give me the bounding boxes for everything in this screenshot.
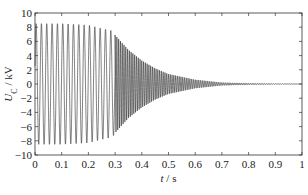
x-tick-label: 0.1	[55, 158, 69, 170]
x-tick-label: 0.2	[82, 158, 96, 170]
x-tick-label: 0.9	[268, 158, 282, 170]
x-tick-label: 0.3	[108, 158, 122, 170]
x-tick-label: 0.5	[162, 158, 176, 170]
y-tick-label: −10	[15, 149, 33, 161]
x-tick-label: 0.6	[188, 158, 202, 170]
x-tick-label: 0.4	[135, 158, 149, 170]
y-tick-label: 6	[27, 35, 33, 47]
x-axis-label: t / s	[161, 172, 177, 184]
uc-waveform-line	[35, 24, 302, 145]
y-tick-label: −4	[20, 106, 32, 118]
y-tick-label: 4	[27, 50, 33, 62]
y-axis-label: UC / kV	[2, 66, 19, 101]
y-tick-label: −8	[20, 135, 32, 147]
figure-caption-clipped	[95, 187, 215, 195]
voltage-waveform-chart: 00.10.20.30.40.50.60.70.80.91 −10−8−6−4−…	[0, 0, 308, 195]
x-tick-label: 1	[299, 158, 305, 170]
y-tick-label: 10	[21, 7, 33, 19]
y-tick-label: 2	[27, 64, 33, 76]
x-tick-label: 0	[32, 158, 38, 170]
y-tick-label: 8	[27, 21, 33, 33]
y-tick-label: −2	[20, 92, 32, 104]
x-tick-label: 0.8	[242, 158, 256, 170]
x-tick-label: 0.7	[215, 158, 229, 170]
y-tick-label: 0	[27, 78, 33, 90]
y-tick-label: −6	[20, 121, 32, 133]
waveform-series	[35, 24, 302, 145]
